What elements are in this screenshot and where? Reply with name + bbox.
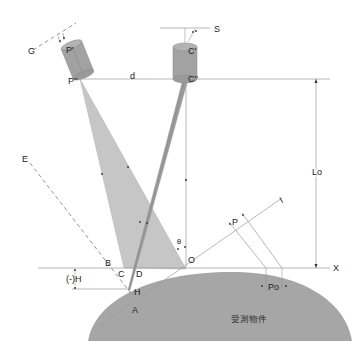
label-P-double-prime: P'' [68,76,78,86]
label-P-prime: P' [66,45,74,55]
label-X: X [333,263,339,273]
label-S: S [214,24,220,34]
label-d: d [130,71,135,81]
triangulation-diagram: G P' P'' d S C' C'' Lo E I P θ O B C D X… [0,0,357,358]
label-C: C [118,269,125,279]
label-B: B [105,258,111,268]
label-measured-object: 受測物件 [231,314,267,324]
label-A: A [132,305,138,315]
label-O: O [188,255,195,265]
label-Po: Po [268,282,279,292]
projection-beam [80,79,186,269]
label-I: I [278,195,285,205]
label-C-double-prime: C'' [188,74,198,84]
label-P: P [232,217,238,227]
label-E: E [22,154,28,164]
measured-object [88,272,352,341]
label-D: D [136,269,143,279]
label-theta: θ [177,237,181,246]
label-C-prime: C' [188,46,196,56]
label-neg-H: (-)H [66,274,82,284]
label-G: G [28,46,35,56]
label-H: H [134,287,141,297]
label-Lo: Lo [312,167,322,177]
